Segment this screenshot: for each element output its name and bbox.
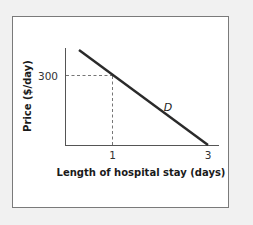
y-axis-label: Price ($/day) <box>22 60 33 132</box>
demand-curve <box>79 50 208 145</box>
x-tick-1: 1 <box>109 149 116 161</box>
x-tick-3: 3 <box>205 149 212 161</box>
y-tick-300: 300 <box>38 70 58 82</box>
demand-chart: 300 1 3 D Length of hospital stay (days)… <box>0 0 253 225</box>
x-axis-label: Length of hospital stay (days) <box>57 167 226 178</box>
demand-curve-label: D <box>164 101 172 114</box>
